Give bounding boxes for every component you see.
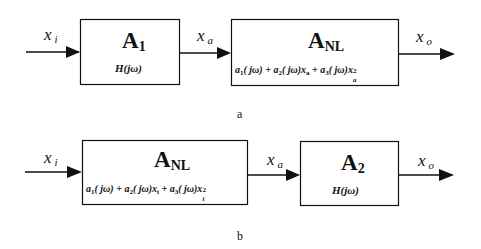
arrowhead-icon [439,169,454,181]
signal-label-xo-b: xo [418,152,434,171]
block-a2-title: A2 [341,151,365,176]
block-a1-title: A1 [122,29,146,54]
arrowhead-icon [67,166,82,178]
signal-label-xo-a: xo [416,28,432,47]
caption-b: b [237,230,243,242]
signal-label-xi-a: xi [44,26,58,45]
block-anl-b-title: ANL [154,148,190,173]
diagram-canvas [0,0,481,249]
block-anl-a-title: ANL [308,29,344,54]
arrowhead-icon [440,48,455,60]
block-anl-a-equation: a1( jω) + a2( jω)xa + a3( jω)x2a [235,65,359,77]
arrowhead-icon [66,46,80,58]
block-a1-transfer: H(jω) [115,63,142,74]
arrowhead-icon [217,47,231,59]
caption-a: a [237,108,242,120]
signal-label-xi-b: xi [44,149,58,168]
signal-label-xa-a: xa [197,27,213,46]
arrowhead-icon [286,169,300,181]
block-a2-transfer: H(jω) [332,185,359,196]
signal-label-xa-b: xa [267,151,283,170]
block-anl-b-equation: a1( jω) + a2( jω)xi + a3( jω)x2i [86,184,208,196]
